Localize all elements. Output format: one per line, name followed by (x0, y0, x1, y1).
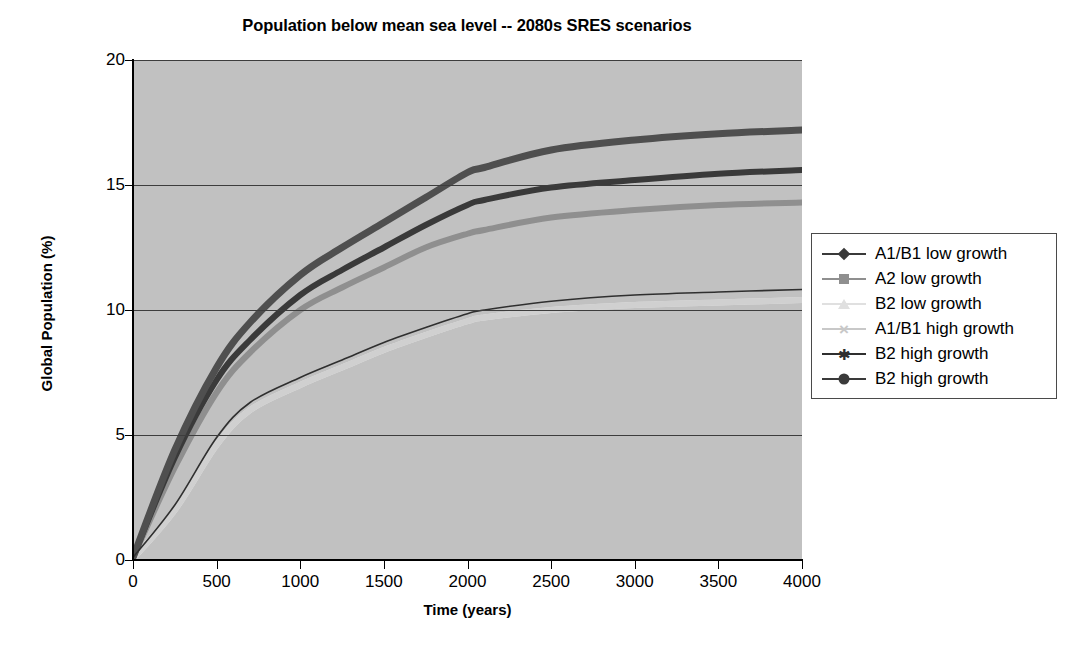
legend-label-4: B2 high growth (875, 344, 988, 364)
gridline-5 (133, 435, 802, 436)
x-tick-label-1500: 1500 (339, 572, 429, 592)
legend-item-1[interactable]: A2 low growth (812, 266, 1056, 291)
legend-label-0: A1/B1 low growth (875, 244, 1007, 264)
x-tick-label-3000: 3000 (590, 572, 680, 592)
y-tick-label-0: 0 (65, 550, 125, 570)
chart-legend: A1/B1 low growthA2 low growthB2 low grow… (811, 233, 1057, 399)
chart-title: Population below mean sea level -- 2080s… (131, 16, 803, 35)
y-tick-15 (125, 185, 133, 186)
legend-item-2[interactable]: B2 low growth (812, 291, 1056, 316)
asterisk-marker-icon: ✱ (838, 346, 851, 361)
y-tick-20 (125, 60, 133, 61)
y-tick-label-20: 20 (65, 50, 125, 70)
x-tick-4000 (802, 561, 803, 569)
x-tick-3000 (635, 561, 636, 569)
legend-label-1: A2 low growth (875, 269, 982, 289)
legend-item-0[interactable]: A1/B1 low growth (812, 241, 1056, 266)
x-tick-2500 (551, 561, 552, 569)
y-tick-5 (125, 435, 133, 436)
y-axis-title: Global Population (%) (38, 164, 55, 464)
plot-area (133, 60, 802, 560)
x-tick-label-4000: 4000 (757, 572, 847, 592)
x-tick-label-0: 0 (88, 572, 178, 592)
series-line-1 (133, 203, 802, 558)
y-tick-label-5: 5 (65, 425, 125, 445)
x-tick-500 (217, 561, 218, 569)
legend-item-4[interactable]: ✱B2 high growth (812, 341, 1056, 366)
diamond-marker-icon (838, 247, 851, 260)
series-line-0 (133, 170, 802, 558)
legend-item-5[interactable]: B2 high growth (812, 366, 1056, 391)
legend-swatch-5 (820, 369, 868, 389)
x-tick-label-2500: 2500 (506, 572, 596, 592)
x-tick-label-1000: 1000 (255, 572, 345, 592)
x-axis-title: Time (years) (133, 601, 802, 618)
triangle-marker-icon (838, 299, 850, 309)
legend-swatch-3: × (820, 319, 868, 339)
gridline-15 (133, 185, 802, 186)
legend-label-3: A1/B1 high growth (875, 319, 1014, 339)
x-tick-0 (133, 561, 134, 569)
gridline-10 (133, 310, 802, 311)
x-tick-label-3500: 3500 (673, 572, 763, 592)
legend-label-5: B2 high growth (875, 369, 988, 389)
y-tick-label-15: 15 (65, 175, 125, 195)
y-tick-label-10: 10 (65, 300, 125, 320)
x-tick-1500 (384, 561, 385, 569)
x-tick-2000 (468, 561, 469, 569)
y-tick-10 (125, 310, 133, 311)
x-tick-label-500: 500 (172, 572, 262, 592)
legend-swatch-1 (820, 269, 868, 289)
legend-label-2: B2 low growth (875, 294, 982, 314)
legend-item-3[interactable]: ×A1/B1 high growth (812, 316, 1056, 341)
x-tick-label-2000: 2000 (423, 572, 513, 592)
legend-swatch-2 (820, 294, 868, 314)
x-marker-icon: × (839, 320, 849, 337)
gridline-20 (133, 60, 802, 61)
square-marker-icon (839, 274, 849, 284)
legend-swatch-0 (820, 244, 868, 264)
y-tick-0 (125, 560, 133, 561)
circle-marker-icon (839, 373, 850, 384)
legend-swatch-4: ✱ (820, 344, 868, 364)
chart-figure: Population below mean sea level -- 2080s… (0, 0, 1077, 671)
x-tick-3500 (718, 561, 719, 569)
series-line-5 (133, 130, 802, 558)
x-tick-1000 (300, 561, 301, 569)
